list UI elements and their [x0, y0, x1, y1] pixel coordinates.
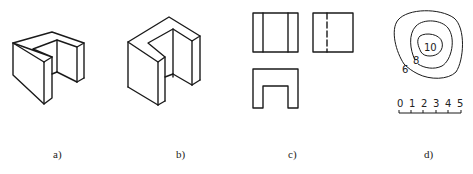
scale-tick-0: 0 [397, 98, 403, 109]
scale-tick-5: 5 [457, 98, 463, 109]
scale-tick-2: 2 [421, 98, 427, 109]
scale-tick-4: 4 [445, 98, 451, 109]
scale-tick-1: 1 [409, 98, 415, 109]
contour-label-8: 8 [413, 55, 419, 66]
scale-tick-3: 3 [433, 98, 439, 109]
contour-map: 10 8 6 0 1 2 3 4 5 [0, 0, 473, 174]
contour-label-10: 10 [424, 42, 437, 53]
scale-bar: 0 1 2 3 4 5 [397, 98, 463, 113]
figure-label-d: d) [424, 148, 433, 160]
contour-label-6: 6 [402, 64, 408, 75]
